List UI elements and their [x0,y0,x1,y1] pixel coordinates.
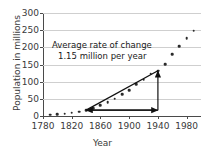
x-tick-label: 1780 [32,121,55,131]
annotation-line-2: 1.15 million per year [52,51,152,62]
x-tick-mark [100,116,101,119]
x-tick-label: 1940 [146,121,169,131]
x-tick-label: 1980 [175,121,198,131]
y-tick-label: 0 [33,111,39,121]
annotation-line-1: Average rate of change [52,40,152,50]
y-tick-label: 200 [22,42,39,52]
y-tick-label: 150 [22,60,39,70]
rate-of-change-overlay [43,13,201,116]
x-tick-mark [72,116,73,119]
x-tick-mark [187,116,188,119]
y-tick-label: 250 [22,25,39,35]
y-axis-title: Population in millions [12,8,22,118]
x-tick-mark [158,116,159,119]
y-tick-label: 50 [28,94,39,104]
secant-line [86,71,158,110]
population-scatter-chart: Population in millions Year 050100150200… [0,0,205,153]
x-tick-mark [129,116,130,119]
y-tick-label: 100 [22,77,39,87]
x-tick-label: 1860 [89,121,112,131]
annotation-average-rate-of-change: Average rate of change 1.15 million per … [52,40,152,62]
plot-area: 050100150200250300 178018201860190019401… [43,13,201,116]
x-tick-label: 1900 [118,121,141,131]
y-tick-label: 300 [22,8,39,18]
x-tick-mark [43,116,44,119]
x-axis-line [43,116,201,117]
x-axis-title: Year [0,138,205,148]
x-tick-label: 1820 [60,121,83,131]
